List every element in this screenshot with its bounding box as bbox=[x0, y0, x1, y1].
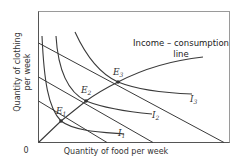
budget-line-1 bbox=[39, 101, 108, 143]
y-axis-label-line2: per week bbox=[23, 53, 32, 90]
x-axis-label: Quantity of food per week bbox=[64, 147, 169, 156]
label-e1: E1 bbox=[55, 106, 66, 117]
icl-title-line2: line bbox=[173, 49, 188, 59]
label-i2: I2 bbox=[151, 110, 160, 121]
origin-label: 0 bbox=[23, 146, 28, 155]
y-axis-label-line1: Quantity of clothing bbox=[13, 32, 22, 111]
icl-title-line1: Income – consumption bbox=[133, 38, 229, 48]
equilibrium-point-e2 bbox=[84, 99, 88, 103]
label-e2: E2 bbox=[80, 85, 92, 96]
income-consumption-diagram: E1 E2 E3 I1 I2 I3 Income – consumption l… bbox=[0, 0, 242, 164]
label-e3: E3 bbox=[112, 67, 124, 78]
plot-frame bbox=[39, 12, 230, 143]
equilibrium-point-e1 bbox=[59, 119, 63, 123]
equilibrium-point-e3 bbox=[116, 80, 120, 84]
label-i1: I1 bbox=[117, 128, 125, 139]
label-i3: I3 bbox=[189, 94, 198, 105]
